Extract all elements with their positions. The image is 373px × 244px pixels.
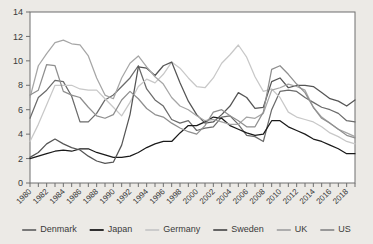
y-tick-label: 0: [18, 178, 23, 188]
chart-canvas: 02468101214 1980198219841986198819901992…: [0, 0, 373, 244]
chart-legend: DenmarkJapanGermanySwedenUKUS: [22, 224, 351, 234]
legend-label-sweden[interactable]: Sweden: [231, 224, 264, 234]
legend-label-japan[interactable]: Japan: [108, 224, 133, 234]
line-chart: 02468101214 1980198219841986198819901992…: [0, 0, 373, 244]
y-tick-label: 12: [13, 32, 23, 42]
legend-label-uk[interactable]: UK: [295, 224, 308, 234]
y-tick-label: 10: [13, 56, 23, 66]
legend-label-us[interactable]: US: [338, 224, 351, 234]
y-tick-label: 4: [18, 129, 23, 139]
y-tick-label: 8: [18, 80, 23, 90]
y-tick-label: 14: [13, 7, 23, 17]
legend-label-denmark[interactable]: Denmark: [40, 224, 77, 234]
legend-label-germany[interactable]: Germany: [163, 224, 201, 234]
y-tick-label: 6: [18, 105, 23, 115]
y-tick-label: 2: [18, 154, 23, 164]
